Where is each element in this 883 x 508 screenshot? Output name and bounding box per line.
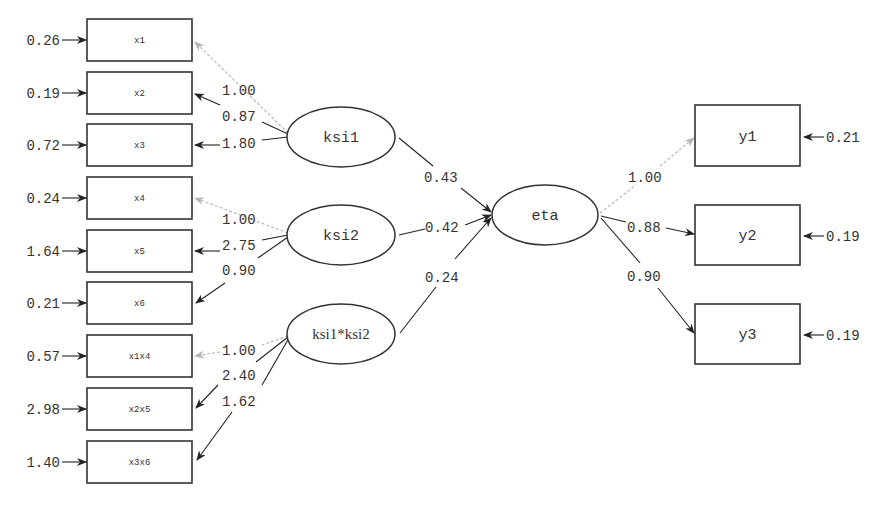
latent-label: ksi1*ksi2 (312, 326, 370, 342)
loading-value: 0.87 (222, 109, 256, 125)
indicator-x6[interactable]: x6 (87, 282, 192, 324)
structural-coef: 0.42 (425, 220, 459, 236)
loading-path-y3[interactable] (658, 288, 694, 333)
indicator-x3[interactable]: x3 (87, 124, 192, 166)
indicator-label: x2 (134, 89, 145, 99)
path-diagram: x1 x2 x3 x4 x5 x6 x1x4 x2x5 (0, 0, 883, 508)
structural-coef: 0.24 (425, 270, 459, 286)
eta-loadings: 1.00 0.88 0.90 (600, 138, 694, 333)
ksi12-loadings: 1.00 2.40 1.62 (195, 336, 289, 460)
latent-eta[interactable]: eta (492, 185, 598, 245)
loading-path-y2[interactable] (666, 228, 694, 234)
loading-path-x3-seg[interactable] (262, 137, 288, 140)
loading-path-x2-seg[interactable] (262, 122, 288, 134)
loading-path-y1-seg[interactable] (600, 185, 636, 213)
ksi1-loadings: 1.00 0.87 1.80 (195, 42, 288, 152)
loading-path-y1[interactable] (660, 138, 694, 166)
error-variance: 0.26 (26, 33, 60, 49)
x-error-terms: 0.26 0.19 0.72 0.24 1.64 0.21 0.57 2.98 … (26, 33, 86, 471)
loading-path-x2[interactable] (195, 94, 220, 105)
indicator-label: x1 (134, 36, 145, 46)
indicator-x1x4[interactable]: x1x4 (87, 335, 192, 377)
indicator-x3x6[interactable]: x3x6 (87, 441, 192, 483)
indicator-label: y3 (738, 327, 756, 344)
loading-path-y2-seg[interactable] (601, 216, 626, 222)
path-ksi1-eta[interactable] (461, 188, 491, 212)
loading-path-x3x6[interactable] (197, 412, 232, 460)
loading-value: 1.00 (222, 343, 256, 359)
y-error-terms: 0.21 0.19 0.19 (804, 130, 860, 344)
error-variance: 0.72 (26, 138, 60, 154)
loading-value: 1.00 (222, 83, 256, 99)
loading-value: 1.62 (222, 394, 256, 410)
loading-value: 2.75 (222, 238, 256, 254)
latent-label: ksi1 (323, 130, 359, 147)
error-variance: 0.19 (826, 229, 860, 245)
structural-paths: 0.43 0.42 0.24 (399, 138, 491, 333)
indicator-x2[interactable]: x2 (87, 72, 192, 114)
error-variance: 0.57 (26, 349, 60, 365)
loading-value: 2.40 (222, 368, 256, 384)
indicator-label: y1 (738, 129, 756, 146)
indicator-x2x5[interactable]: x2x5 (87, 388, 192, 430)
ksi2-loadings: 1.00 2.75 0.90 (195, 198, 288, 303)
indicator-label: x2x5 (129, 405, 151, 415)
error-variance: 2.98 (26, 402, 60, 418)
loading-path-x3x6-seg[interactable] (262, 338, 289, 385)
path-ksi1-eta-seg[interactable] (399, 138, 433, 166)
error-variance: 0.19 (26, 86, 60, 102)
path-ksi2-eta[interactable] (465, 215, 491, 225)
error-variance: 0.21 (26, 296, 60, 312)
indicator-label: x6 (134, 299, 145, 309)
loading-value: 0.90 (222, 263, 256, 279)
loading-value: 0.90 (627, 269, 661, 285)
error-variance: 1.40 (26, 455, 60, 471)
indicator-label: x4 (134, 194, 145, 204)
path-ksi12-eta[interactable] (455, 218, 491, 259)
loading-path-x6[interactable] (196, 283, 225, 303)
indicator-x4[interactable]: x4 (87, 177, 192, 219)
error-variance: 0.19 (826, 328, 860, 344)
indicator-label: x3x6 (129, 458, 151, 468)
path-ksi12-eta-seg[interactable] (400, 287, 436, 333)
indicator-y3[interactable]: y3 (695, 304, 800, 364)
indicator-label: x5 (134, 247, 145, 257)
error-variance: 0.24 (26, 191, 60, 207)
error-variance: 0.21 (826, 130, 860, 146)
latent-ksi1-ksi2[interactable]: ksi1*ksi2 (287, 304, 395, 364)
indicator-label: x1x4 (129, 352, 151, 362)
latent-ksi1[interactable]: ksi1 (287, 107, 395, 167)
y-indicators: y1 y2 y3 (695, 105, 800, 364)
loading-path-x2x5[interactable] (196, 385, 218, 408)
loading-value: 0.88 (627, 220, 661, 236)
loading-value: 1.80 (222, 136, 256, 152)
loading-path-x1x4[interactable] (195, 352, 220, 356)
x-indicators: x1 x2 x3 x4 x5 x6 x1x4 x2x5 (87, 19, 192, 483)
indicator-y1[interactable]: y1 (695, 105, 800, 166)
indicator-label: y2 (738, 228, 756, 245)
indicator-x5[interactable]: x5 (87, 230, 192, 272)
indicator-y2[interactable]: y2 (695, 205, 800, 265)
path-ksi2-eta-seg[interactable] (399, 229, 425, 235)
latent-label: eta (531, 208, 558, 225)
loading-path-x2x5-seg[interactable] (256, 337, 288, 362)
structural-coef: 0.43 (424, 170, 458, 186)
latent-ksi2[interactable]: ksi2 (287, 205, 395, 265)
error-variance: 1.64 (26, 244, 60, 260)
loading-value: 1.00 (628, 170, 662, 186)
latent-label: ksi2 (323, 228, 359, 245)
loading-value: 1.00 (222, 212, 256, 228)
indicator-x1[interactable]: x1 (87, 19, 192, 61)
indicator-label: x3 (134, 141, 145, 151)
